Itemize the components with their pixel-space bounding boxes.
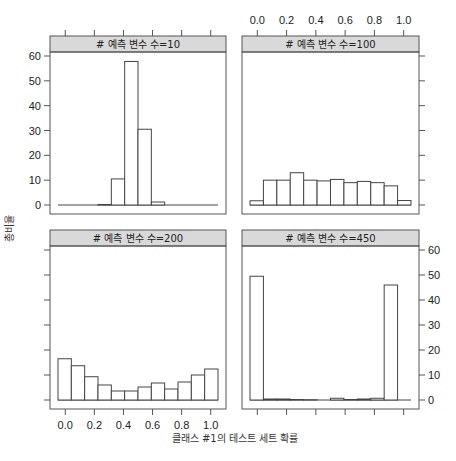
histogram-trellis-chart: # 예측 변수 수=100102030405060# 예측 변수 수=1000.… — [0, 0, 456, 461]
histogram-bar — [371, 183, 384, 205]
histogram-bar — [191, 375, 204, 400]
panel-2: # 예측 변수 수=1000.00.20.40.60.81.0 — [242, 14, 425, 214]
histogram-bar — [384, 186, 397, 205]
histogram-bar — [71, 366, 84, 400]
x-tick-label: 1.0 — [203, 419, 218, 431]
histogram-bar — [304, 180, 317, 205]
histogram-bar — [250, 276, 263, 400]
histogram-bar — [151, 383, 164, 400]
x-tick-label: 0.6 — [337, 14, 352, 26]
histogram-bar — [277, 399, 290, 400]
histogram-bar — [58, 359, 71, 400]
histogram-bar — [290, 173, 303, 205]
histogram-bar — [357, 181, 370, 205]
x-tick-label: 0.2 — [87, 419, 102, 431]
panels-group: # 예측 변수 수=100102030405060# 예측 변수 수=1000.… — [29, 14, 441, 431]
histogram-bar — [331, 398, 344, 400]
histogram-bar — [151, 202, 164, 205]
histogram-bar — [290, 400, 303, 401]
y-tick-label: 0 — [428, 394, 434, 406]
histogram-bar — [263, 399, 276, 400]
x-tick-label: 0.0 — [58, 419, 73, 431]
y-tick-label: 50 — [428, 269, 440, 281]
x-tick-label: 0.4 — [308, 14, 323, 26]
y-tick-label: 40 — [29, 100, 41, 112]
histogram-bar — [344, 400, 357, 401]
y-axis-label: 총비율 — [4, 215, 15, 242]
histogram-bar — [263, 180, 276, 205]
histogram-bar — [384, 285, 397, 400]
histogram-bar — [111, 179, 124, 205]
histogram-bar — [371, 398, 384, 400]
x-tick-label: 0.8 — [367, 14, 382, 26]
histogram-bar — [205, 369, 218, 400]
histogram-bar — [357, 399, 370, 400]
panel-1: # 예측 변수 수=100102030405060 — [29, 30, 226, 214]
x-tick-label: 0.6 — [145, 419, 160, 431]
y-tick-label: 20 — [428, 344, 440, 356]
y-tick-label: 10 — [29, 174, 41, 186]
histogram-bar — [331, 179, 344, 205]
histogram-bar — [344, 183, 357, 205]
y-tick-label: 60 — [29, 50, 41, 62]
panel-title: # 예측 변수 수=200 — [93, 233, 183, 244]
x-tick-label: 1.0 — [396, 14, 411, 26]
y-tick-label: 30 — [29, 125, 41, 137]
panel-4: # 예측 변수 수=4500102030405060 — [242, 230, 440, 415]
histogram-bar — [125, 61, 138, 205]
y-tick-label: 30 — [428, 319, 440, 331]
histogram-bar — [398, 201, 411, 205]
x-tick-label: 0.2 — [279, 14, 294, 26]
histogram-bar — [98, 385, 111, 400]
histogram-bar — [138, 387, 151, 400]
panel-title: # 예측 변수 수=100 — [285, 39, 375, 50]
y-tick-label: 20 — [29, 149, 41, 161]
histogram-bar — [277, 180, 290, 205]
histogram-bar — [111, 391, 124, 400]
x-tick-label: 0.4 — [116, 419, 131, 431]
y-tick-label: 60 — [428, 244, 440, 256]
panel-3: # 예측 변수 수=2000.00.20.40.60.81.0 — [44, 230, 226, 431]
histogram-bar — [250, 201, 263, 205]
panel-title: # 예측 변수 수=10 — [96, 39, 180, 50]
x-axis-label: 클래스 #1의 테스트 세트 확률 — [172, 433, 298, 444]
x-tick-label: 0.8 — [174, 419, 189, 431]
histogram-bar — [138, 129, 151, 205]
histogram-bar — [165, 389, 178, 400]
histogram-bar — [85, 377, 98, 400]
y-tick-label: 10 — [428, 369, 440, 381]
y-tick-label: 40 — [428, 294, 440, 306]
y-tick-label: 50 — [29, 75, 41, 87]
x-tick-label: 0.0 — [250, 14, 265, 26]
histogram-bar — [178, 382, 191, 400]
panel-title: # 예측 변수 수=450 — [285, 233, 375, 244]
y-tick-label: 0 — [35, 199, 41, 211]
histogram-bar — [317, 181, 330, 205]
histogram-bar — [125, 391, 138, 400]
